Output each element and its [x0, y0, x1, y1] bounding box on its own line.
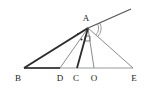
ray-through-A	[87, 9, 131, 29]
vertex-label-B: B	[15, 73, 21, 83]
vertex-label-E: E	[131, 73, 137, 83]
segment-AE	[88, 28, 133, 68]
angle-tick-dot-AD	[81, 39, 83, 41]
angle-tick-dot-BA	[77, 33, 79, 35]
vertex-label-O: O	[91, 73, 98, 83]
geometry-figure: A B D C O E	[0, 0, 147, 88]
vertex-label-C: C	[73, 73, 79, 83]
cevian-AD	[60, 28, 88, 68]
angle-arc-inner-at-A	[96, 24, 99, 35]
geometry-canvas: A B D C O E	[0, 0, 147, 88]
vertex-label-D: D	[57, 73, 64, 83]
vertex-label-A: A	[83, 13, 90, 23]
cevian-AO	[88, 28, 94, 68]
